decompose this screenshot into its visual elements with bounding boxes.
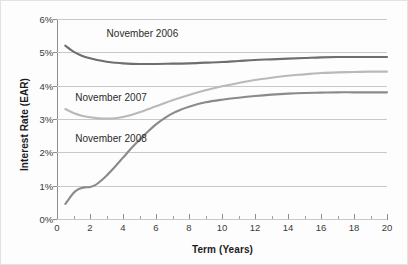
x-axis-tick-mark <box>354 214 355 219</box>
plot-area <box>57 19 387 219</box>
series-label-november-2008: November 2008 <box>75 133 147 144</box>
x-axis-tick-mark <box>255 214 256 219</box>
x-axis-tick-label: 8 <box>186 222 191 233</box>
x-axis-tick-label: 20 <box>382 222 393 233</box>
x-axis-minor-tick-mark <box>272 216 273 219</box>
x-axis-tick-label: 16 <box>316 222 327 233</box>
x-axis-tick-label: 18 <box>349 222 360 233</box>
x-axis-minor-tick-mark <box>173 216 174 219</box>
y-axis-tick-label: 2% <box>39 147 53 158</box>
x-axis-tick-label: 10 <box>217 222 228 233</box>
series-label-november-2006: November 2006 <box>107 28 179 39</box>
x-axis-tick-mark <box>156 214 157 219</box>
series-label-november-2007: November 2007 <box>75 92 147 103</box>
x-axis-tick-label: 14 <box>283 222 294 233</box>
x-axis-minor-tick-mark <box>140 216 141 219</box>
x-axis-minor-tick-mark <box>107 216 108 219</box>
series-line <box>65 46 387 64</box>
x-axis-minor-tick-mark <box>338 216 339 219</box>
gridline-y <box>57 219 387 220</box>
x-axis-minor-tick-mark <box>74 216 75 219</box>
x-axis-tick-mark <box>387 214 388 219</box>
y-axis-tick-label: 6% <box>39 14 53 25</box>
y-axis-tick-label: 1% <box>39 180 53 191</box>
y-axis-tick-group: 0%1%2%3%4%5%6% <box>1 1 53 265</box>
x-axis-tick-label: 0 <box>54 222 59 233</box>
x-axis-tick-mark <box>288 214 289 219</box>
x-axis-minor-tick-mark <box>239 216 240 219</box>
x-axis-minor-tick-mark <box>206 216 207 219</box>
x-axis-tick-mark <box>321 214 322 219</box>
x-axis-minor-tick-mark <box>371 216 372 219</box>
x-axis-title: Term (Years) <box>57 244 388 255</box>
y-axis-tick-label: 5% <box>39 47 53 58</box>
x-axis-tick-mark <box>90 214 91 219</box>
x-axis-tick-mark <box>189 214 190 219</box>
y-axis-tick-label: 0% <box>39 214 53 225</box>
series-line <box>65 92 387 204</box>
x-axis-tick-mark <box>222 214 223 219</box>
interest-rate-yield-curve-chart: Interest Rate (EAR) 0%1%2%3%4%5%6% 02468… <box>0 0 408 265</box>
x-axis-tick-label: 12 <box>250 222 261 233</box>
y-axis-tick-label: 4% <box>39 80 53 91</box>
x-axis-tick-mark <box>123 214 124 219</box>
x-axis-tick-label: 4 <box>120 222 125 233</box>
series-curves <box>57 19 387 219</box>
x-axis-minor-tick-mark <box>305 216 306 219</box>
y-axis-tick-label: 3% <box>39 114 53 125</box>
x-axis-tick-label: 2 <box>87 222 92 233</box>
x-axis-tick-label: 6 <box>153 222 158 233</box>
x-axis-tick-mark <box>57 214 58 219</box>
